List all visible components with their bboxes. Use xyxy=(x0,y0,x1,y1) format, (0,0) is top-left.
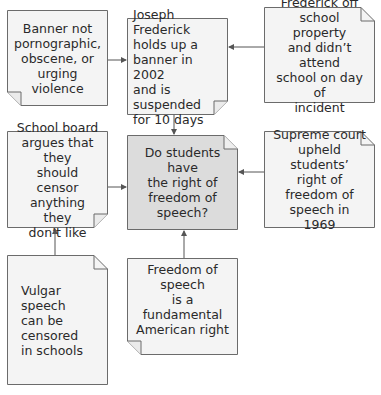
note-school-board: School board argues that they should cen… xyxy=(7,131,108,228)
note-text: Joseph Frederick holds up a banner in 20… xyxy=(133,7,220,127)
note-text: Vulgar speech can be censored in schools xyxy=(21,283,100,358)
note-text: Supreme court upheld students’ right of … xyxy=(272,127,367,232)
note-text: Frederick off school property and didn’t… xyxy=(272,0,367,115)
note-text: Freedom of speech is a fundamental Ameri… xyxy=(135,262,230,337)
note-text: Banner not pornographic, obscene, or urg… xyxy=(14,21,101,96)
note-text: School board argues that they should cen… xyxy=(15,120,100,240)
note-freedom: Freedom of speech is a fundamental Ameri… xyxy=(127,258,238,355)
note-supreme-court: Supreme court upheld students’ right of … xyxy=(264,131,375,228)
note-text: Do students have the right of freedom of… xyxy=(135,145,230,220)
note-joseph: Joseph Frederick holds up a banner in 20… xyxy=(127,18,228,115)
note-banner: Banner not pornographic, obscene, or urg… xyxy=(7,10,108,106)
concept-map: Banner not pornographic, obscene, or urg… xyxy=(0,0,381,395)
note-central-question: Do students have the right of freedom of… xyxy=(127,135,238,230)
note-frederick-off: Frederick off school property and didn’t… xyxy=(264,7,375,103)
note-vulgar: Vulgar speech can be censored in schools xyxy=(7,255,108,385)
